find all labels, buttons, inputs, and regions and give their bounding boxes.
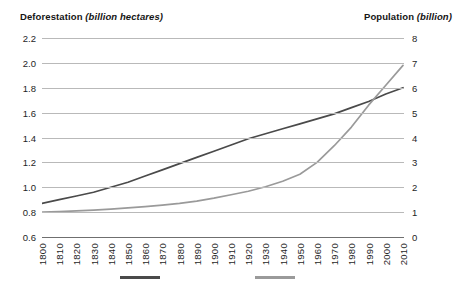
gridline: [42, 138, 404, 139]
x-axis-tick-label: 1890: [192, 243, 203, 265]
left-axis-tick-label: 2.2: [6, 33, 36, 44]
right-axis-tick-label: 6: [412, 83, 442, 94]
x-axis-tick-label: 1800: [37, 243, 48, 265]
right-axis-title: Population (billion): [364, 11, 452, 22]
left-axis-tick-label: 0.8: [6, 207, 36, 218]
x-axis-tick-label: 1840: [106, 243, 117, 265]
left-axis-tick-label: 1.2: [6, 157, 36, 168]
right-axis-tick-label: 0: [412, 232, 442, 243]
x-axis-tick-label: 1970: [329, 243, 340, 265]
left-axis-title-unit: (billion hectares): [85, 11, 163, 22]
x-axis-tick-label: 1920: [243, 243, 254, 265]
left-axis-tick-label: 1.4: [6, 133, 36, 144]
x-axis-tick-label: 1860: [140, 243, 151, 265]
right-axis-title-name: Population: [364, 11, 414, 22]
left-axis-tick-label: 1.6: [6, 108, 36, 119]
right-axis-tick-label: 3: [412, 157, 442, 168]
x-axis-tick-label: 1980: [346, 243, 357, 265]
left-axis-tick-label: 0.6: [6, 232, 36, 243]
right-axis-tick-label: 4: [412, 133, 442, 144]
legend-swatch: [255, 276, 295, 279]
x-axis-tick-label: 1880: [175, 243, 186, 265]
gridline: [42, 162, 404, 163]
right-axis-tick-label: 2: [412, 182, 442, 193]
legend-item-population-series[interactable]: [255, 276, 300, 279]
plot-area: [42, 38, 404, 238]
x-axis-tick-label: 1960: [312, 243, 323, 265]
legend-swatch: [120, 276, 160, 279]
right-axis-tick-label: 8: [412, 33, 442, 44]
chart-legend: [0, 274, 466, 288]
right-axis-title-unit: (billion): [417, 11, 452, 22]
x-axis-tick-label: 1830: [89, 243, 100, 265]
x-axis-tick-label: 1810: [54, 243, 65, 265]
x-axis-tick-label: 2000: [381, 243, 392, 265]
x-axis-tick-label: 1910: [226, 243, 237, 265]
x-axis-tick-label: 1930: [260, 243, 271, 265]
gridline: [42, 63, 404, 64]
deforestation-population-chart: Deforestation (billion hectares) Populat…: [0, 0, 466, 292]
right-axis-tick-label: 1: [412, 207, 442, 218]
x-axis-tick-label: 1850: [123, 243, 134, 265]
x-axis-tick-label: 1950: [295, 243, 306, 265]
x-axis-tick-label: 1870: [157, 243, 168, 265]
left-axis-tick-label: 1.0: [6, 182, 36, 193]
gridline: [42, 237, 404, 238]
left-axis-tick-label: 2.0: [6, 58, 36, 69]
left-axis-tick-label: 1.8: [6, 83, 36, 94]
gridline: [42, 113, 404, 114]
gridline: [42, 187, 404, 188]
left-axis-title-name: Deforestation: [20, 11, 83, 22]
gridline: [42, 212, 404, 213]
right-axis-tick-label: 7: [412, 58, 442, 69]
gridline: [42, 88, 404, 89]
x-axis-tick-label: 2010: [398, 243, 409, 265]
x-axis-tick-label: 1940: [278, 243, 289, 265]
left-axis-title: Deforestation (billion hectares): [20, 11, 163, 22]
legend-item-deforestation-series[interactable]: [120, 276, 165, 279]
right-axis-tick-label: 5: [412, 108, 442, 119]
x-axis-tick-label: 1900: [209, 243, 220, 265]
x-axis-tick-label: 1820: [71, 243, 82, 265]
x-axis-tick-label: 1990: [364, 243, 375, 265]
gridline: [42, 38, 404, 39]
